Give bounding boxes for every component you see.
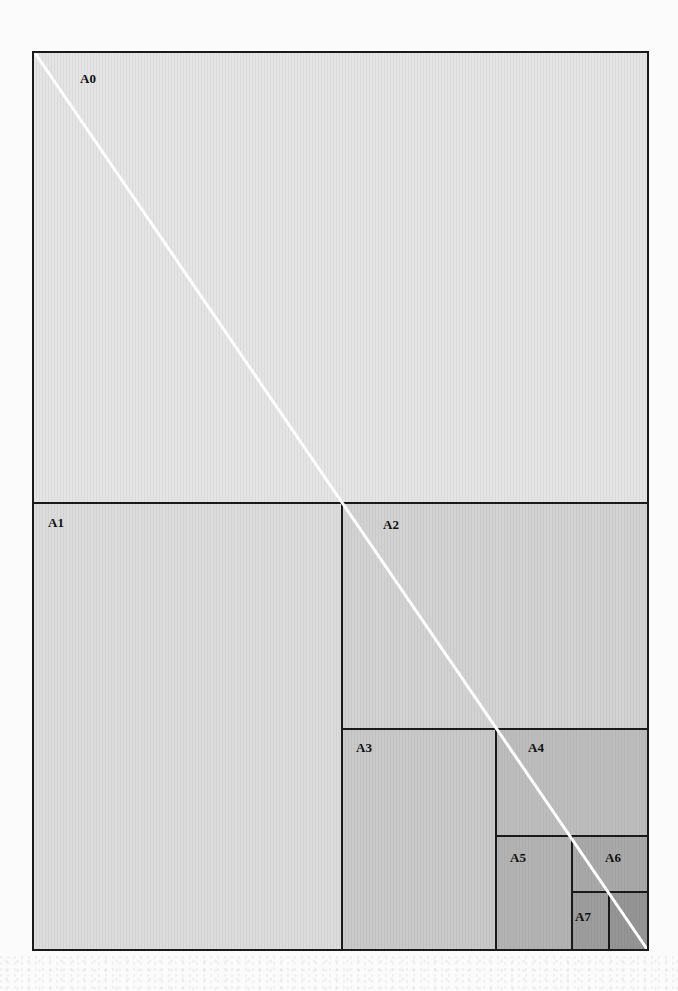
label-a4: A4 <box>528 741 544 754</box>
label-a1: A1 <box>48 516 64 529</box>
label-a7: A7 <box>575 910 591 923</box>
label-a0: A0 <box>80 72 96 85</box>
label-a6: A6 <box>605 851 621 864</box>
label-a2: A2 <box>383 518 399 531</box>
paper-size-diagram <box>0 0 678 991</box>
label-a3: A3 <box>356 741 372 754</box>
label-a5: A5 <box>510 851 526 864</box>
